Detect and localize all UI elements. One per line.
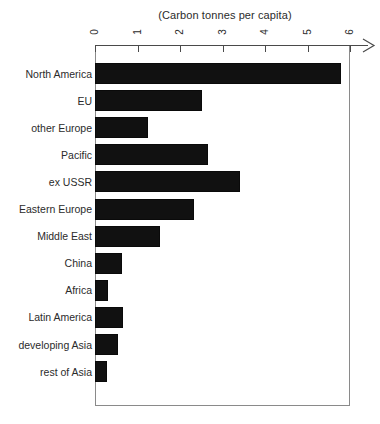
x-axis-tick [95, 46, 96, 52]
x-axis-tick [223, 46, 224, 52]
x-axis-tick [265, 46, 266, 52]
x-axis-tick-label: 6 [344, 25, 356, 39]
bar [95, 117, 148, 138]
category-label: rest of Asia [40, 366, 92, 378]
x-axis-tick-label: 2 [174, 25, 186, 39]
bar [95, 226, 160, 247]
bar [95, 171, 240, 192]
category-label: Africa [65, 284, 92, 296]
bar [95, 90, 202, 111]
category-label: North America [25, 68, 92, 80]
category-label: Eastern Europe [19, 203, 92, 215]
bar [95, 144, 208, 165]
category-label: ex USSR [49, 176, 92, 188]
x-axis-arrow-icon [362, 38, 376, 53]
carbon-per-capita-bar-chart: (Carbon tonnes per capita) 0123456 North… [0, 0, 380, 424]
bar [95, 334, 118, 355]
x-axis-tick-label: 1 [132, 25, 144, 39]
x-axis-tick-label: 3 [217, 25, 229, 39]
category-label: Latin America [28, 311, 92, 323]
x-axis-tick [138, 46, 139, 52]
x-axis-tick [180, 46, 181, 52]
bar [95, 307, 123, 328]
bar [95, 253, 122, 274]
category-label: China [65, 257, 92, 269]
x-axis-tick-label: 0 [89, 25, 101, 39]
bar [95, 63, 341, 84]
bar [95, 199, 194, 220]
bar [95, 280, 108, 301]
category-label: EU [77, 95, 92, 107]
category-label: developing Asia [18, 339, 92, 351]
category-label: Middle East [37, 230, 92, 242]
bar [95, 361, 107, 382]
category-label: other Europe [31, 122, 92, 134]
x-axis-tick [308, 46, 309, 52]
category-label: Pacific [61, 149, 92, 161]
x-axis-tick-label: 4 [259, 25, 271, 39]
x-axis-tick [350, 46, 351, 52]
chart-title: (Carbon tonnes per capita) [110, 9, 340, 21]
x-axis-tick-label: 5 [302, 25, 314, 39]
